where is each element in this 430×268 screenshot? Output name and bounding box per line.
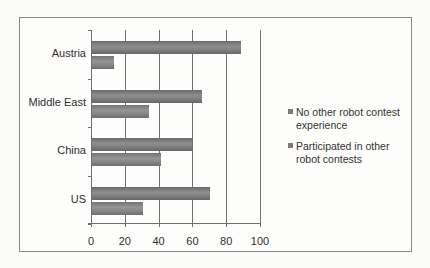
bar-us-series-1 [92,187,210,200]
legend-swatch-icon [288,109,293,114]
bar-middle-east-series-2 [92,105,149,118]
legend: No other robot contest experience Partic… [288,106,408,174]
gridline [260,30,261,224]
category-label: US [71,193,86,205]
legend-item-no-experience: No other robot contest experience [288,106,408,132]
x-tick [125,224,126,227]
bar-middle-east-series-1 [92,90,202,103]
y-tick [88,176,91,177]
y-tick [88,30,91,31]
x-tick-label: 20 [119,235,131,247]
bar-china-series-1 [92,138,192,151]
plot-area [91,30,260,224]
legend-label: No other robot contest experience [296,106,400,131]
y-tick [88,127,91,128]
bar-us-series-2 [92,202,143,215]
category-label: China [57,144,86,156]
bar-austria-series-1 [92,41,241,54]
category-label: Austria [52,47,86,59]
x-tick-label: 80 [220,235,232,247]
bar-china-series-2 [92,153,161,166]
x-tick-label: 0 [88,235,94,247]
bar-austria-series-2 [92,56,114,69]
y-tick [88,79,91,80]
x-axis [88,223,260,224]
x-tick-label: 100 [251,235,269,247]
legend-swatch-icon [288,143,293,148]
x-tick [192,224,193,227]
x-tick [260,224,261,227]
y-tick [88,224,91,225]
x-tick-label: 60 [186,235,198,247]
legend-item-participated: Participated in other robot contests [288,140,408,166]
legend-label: Participated in other robot contests [296,140,389,165]
x-tick [226,224,227,227]
x-tick-label: 40 [152,235,164,247]
gridline [226,30,227,224]
x-tick [159,224,160,227]
x-tick [91,224,92,227]
category-label: Middle East [29,96,86,108]
